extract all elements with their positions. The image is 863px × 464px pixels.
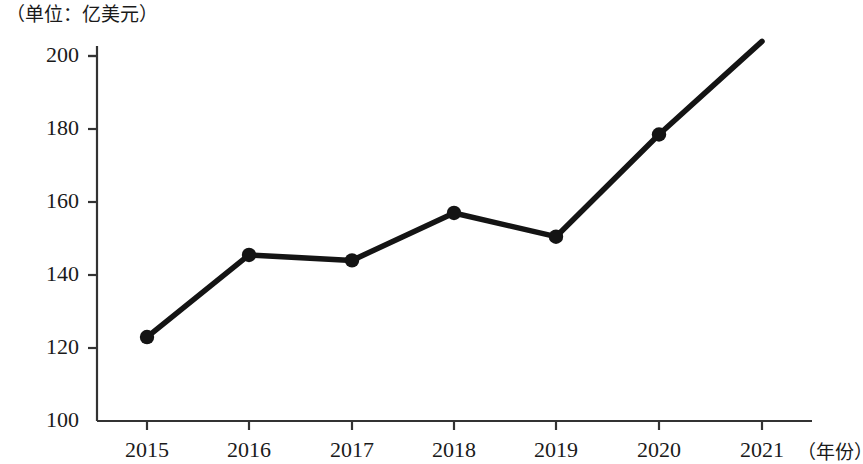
data-point xyxy=(447,206,461,220)
axes xyxy=(97,46,812,421)
data-point xyxy=(652,127,666,141)
axis-ticks xyxy=(88,56,762,430)
data-point xyxy=(549,229,563,243)
data-point xyxy=(242,248,256,262)
data-point xyxy=(345,253,359,267)
data-point xyxy=(140,330,154,344)
data-line xyxy=(147,41,762,337)
line-chart: （单位：亿美元） 100 120 140 160 180 200 2015 20… xyxy=(0,0,863,464)
plot-area xyxy=(0,0,863,464)
